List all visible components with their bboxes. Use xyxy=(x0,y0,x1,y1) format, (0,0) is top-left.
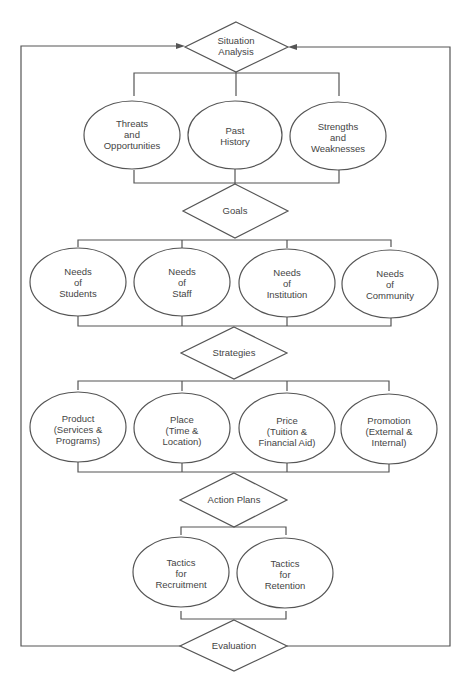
connector-strategies-to-4p xyxy=(78,381,389,391)
situation-analysis-diamond: Situation Analysis xyxy=(185,22,288,72)
promotion-label-3: Internal) xyxy=(372,437,407,448)
promotion-ellipse: Promotion (External & Internal) xyxy=(341,394,437,464)
students-label-1: Needs xyxy=(64,266,92,277)
tactics-recruitment-ellipse: Tactics for Recruitment xyxy=(133,537,229,607)
place-label-2: (Time & xyxy=(166,425,200,436)
needs-of-staff-ellipse: Needs of Staff xyxy=(134,248,230,316)
connector-needs-to-strategies xyxy=(78,316,391,326)
strategies-diamond: Strategies xyxy=(181,327,287,379)
needs-of-institution-ellipse: Needs of Institution xyxy=(239,249,335,317)
product-label-2: (Services & xyxy=(54,424,103,435)
staff-label-2: of xyxy=(178,277,186,288)
connector-row1-to-goals xyxy=(134,169,339,184)
community-label-3: Community xyxy=(366,290,414,301)
community-label-1: Needs xyxy=(376,268,404,279)
institution-label-3: Institution xyxy=(267,289,308,300)
institution-label-1: Needs xyxy=(273,267,301,278)
retention-label-1: Tactics xyxy=(270,558,299,569)
evaluation-diamond: Evaluation xyxy=(180,620,287,671)
place-ellipse: Place (Time & Location) xyxy=(134,393,230,463)
strengths-weaknesses-ellipse: Strengths and Weaknesses xyxy=(290,102,386,170)
strengths-label-2: and xyxy=(330,132,346,143)
retention-label-2: for xyxy=(279,569,290,580)
place-label-3: Location) xyxy=(162,436,201,447)
place-label-1: Place xyxy=(170,414,194,425)
action-plans-label: Action Plans xyxy=(208,494,261,505)
needs-of-students-ellipse: Needs of Students xyxy=(30,248,126,316)
students-label-3: Students xyxy=(59,288,97,299)
price-ellipse: Price (Tuition & Financial Aid) xyxy=(239,393,335,463)
threats-label-1: Threats xyxy=(116,118,148,129)
goals-diamond: Goals xyxy=(183,184,288,238)
product-label-3: Programs) xyxy=(56,435,100,446)
action-plans-diamond: Action Plans xyxy=(180,473,287,527)
price-label-3: Financial Aid) xyxy=(258,437,315,448)
product-label-1: Product xyxy=(62,413,95,424)
connector-4p-to-action xyxy=(78,462,389,472)
staff-label-3: Staff xyxy=(172,288,192,299)
threats-label-2: and xyxy=(124,129,140,140)
connector-tactics-to-evaluation xyxy=(181,611,286,619)
strategies-label: Strategies xyxy=(213,347,256,358)
institution-label-2: of xyxy=(283,278,291,289)
price-label-1: Price xyxy=(276,415,298,426)
needs-of-community-ellipse: Needs of Community xyxy=(342,250,438,318)
connector-situation-to-row1 xyxy=(134,72,339,96)
strengths-label-3: Weaknesses xyxy=(311,143,365,154)
goals-label: Goals xyxy=(223,205,248,216)
threats-label-3: Opportunities xyxy=(104,140,161,151)
staff-label-1: Needs xyxy=(168,266,196,277)
community-label-2: of xyxy=(386,279,394,290)
situation-label-2: Analysis xyxy=(218,46,254,57)
flowchart: Situation Analysis Threats and Opportuni… xyxy=(0,0,469,683)
threats-opportunities-ellipse: Threats and Opportunities xyxy=(84,101,180,169)
strengths-label-1: Strengths xyxy=(318,121,359,132)
promotion-label-1: Promotion xyxy=(367,415,410,426)
promotion-label-2: (External & xyxy=(366,426,414,437)
tactics-retention-ellipse: Tactics for Retention xyxy=(237,538,333,608)
situation-label-1: Situation xyxy=(218,35,255,46)
evaluation-label: Evaluation xyxy=(212,640,256,651)
past-label-2: History xyxy=(220,136,250,147)
connector-action-to-tactics xyxy=(181,527,286,535)
recruitment-label-2: for xyxy=(175,568,186,579)
students-label-2: of xyxy=(74,277,82,288)
past-label-1: Past xyxy=(225,125,244,136)
past-history-ellipse: Past History xyxy=(188,101,282,169)
recruitment-label-1: Tactics xyxy=(166,557,195,568)
connector-goals-to-needs xyxy=(78,240,391,248)
price-label-2: (Tuition & xyxy=(267,426,308,437)
recruitment-label-3: Recruitment xyxy=(155,579,207,590)
retention-label-3: Retention xyxy=(265,580,306,591)
product-ellipse: Product (Services & Programs) xyxy=(30,392,126,462)
